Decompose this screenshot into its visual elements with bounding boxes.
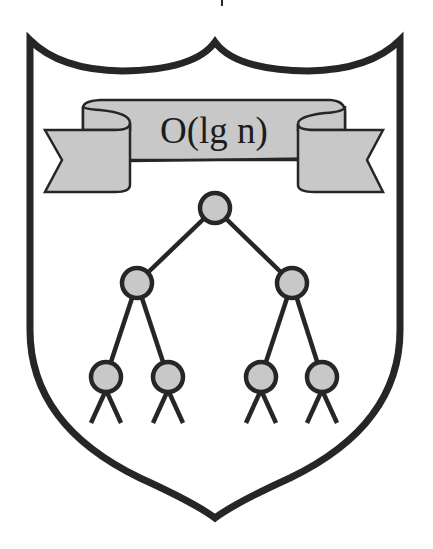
tree-leaf-2	[153, 362, 183, 392]
ribbon-banner: O(lg n)	[45, 100, 383, 192]
tree-nodes	[91, 193, 337, 392]
tree-leaf-3	[246, 362, 276, 392]
tree-node-right	[277, 268, 307, 298]
tree-leaf-1	[91, 362, 121, 392]
tree-leaf-4	[307, 362, 337, 392]
ribbon-left-tail	[45, 123, 130, 192]
ribbon-right-tail	[298, 124, 383, 192]
crest-diagram: O(lg n)	[0, 0, 433, 549]
tree-edges	[91, 208, 337, 423]
banner-text: O(lg n)	[160, 110, 268, 152]
tree-node-root	[200, 193, 230, 223]
tree-node-left	[122, 268, 152, 298]
